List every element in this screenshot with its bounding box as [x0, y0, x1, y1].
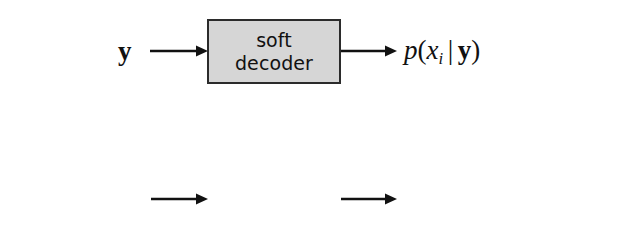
arrow-y-to-soft-decoder [150, 44, 208, 58]
soft-decoder-box[interactable]: soft decoder [207, 19, 341, 84]
probability-p-symbol: p [404, 35, 418, 65]
vector-y-symbol: y [118, 36, 132, 66]
vector-y-symbol: y [458, 35, 472, 65]
soft-decoder-row: y soft decoder p(xi|y) [0, 0, 630, 122]
conditional-bar: | [443, 34, 457, 65]
soft-decoder-label-line1: soft [256, 29, 292, 51]
block-diagram-canvas: y soft decoder p(xi|y) p(xi|y) [0, 0, 630, 245]
variable-x-symbol: x [427, 35, 439, 65]
soft-decoder-output-label: p(xi|y) [404, 36, 480, 67]
soft-decoder-input-label: y [118, 38, 132, 65]
arrow-hard-decoder-to-max [341, 192, 397, 206]
close-paren: ) [471, 35, 480, 65]
hard-decoder-row: p(xi|y) hard decoder maxxip(xi|y) [0, 122, 630, 245]
arrow-posterior-to-hard-decoder [151, 192, 208, 206]
soft-decoder-label-line2: decoder [235, 52, 313, 74]
arrow-soft-decoder-to-posterior [341, 44, 397, 58]
open-paren: ( [418, 35, 427, 65]
